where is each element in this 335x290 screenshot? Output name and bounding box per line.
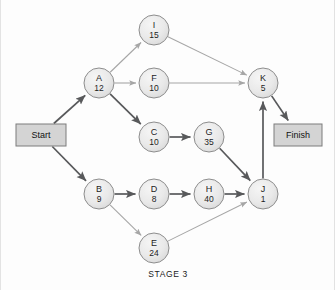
edge-K-to-finish	[272, 96, 289, 121]
edge-start-to-A	[54, 95, 85, 123]
edge-start-to-B	[52, 147, 86, 181]
node-A: A12	[84, 68, 114, 98]
figure-caption: STAGE 3	[148, 269, 187, 279]
node-value-H: 40	[204, 194, 214, 204]
node-value-C: 10	[149, 137, 159, 147]
edge-G-to-J	[220, 148, 251, 180]
node-label-K: K	[260, 73, 266, 83]
network-diagram-figure: StartFinishI15A12F10K5C10G35B9D8H40J1E24…	[0, 0, 335, 290]
terminal-label-finish: Finish	[286, 130, 310, 140]
node-label-E: E	[151, 238, 157, 248]
node-G: G35	[194, 122, 224, 152]
terminal-label-start: Start	[31, 130, 51, 140]
node-value-E: 24	[149, 248, 159, 258]
node-value-I: 15	[149, 30, 159, 40]
node-value-D: 8	[152, 194, 157, 204]
node-label-D: D	[151, 184, 158, 194]
node-value-J: 1	[261, 194, 266, 204]
node-label-B: B	[96, 184, 102, 194]
node-label-C: C	[151, 127, 158, 137]
node-B: B9	[84, 179, 114, 209]
node-I: I15	[139, 15, 169, 45]
project-network-graph: StartFinishI15A12F10K5C10G35B9D8H40J1E24…	[1, 0, 335, 290]
node-label-H: H	[206, 184, 213, 194]
node-label-A: A	[96, 73, 102, 83]
terminal-start: Start	[16, 124, 66, 146]
edge-A-to-C	[110, 94, 141, 124]
edges-layer	[52, 37, 288, 241]
node-E: E24	[139, 233, 169, 263]
node-label-I: I	[153, 20, 156, 30]
node-label-F: F	[151, 73, 157, 83]
nodes-layer: StartFinishI15A12F10K5C10G35B9D8H40J1E24	[16, 15, 322, 263]
node-value-B: 9	[97, 194, 102, 204]
edge-A-to-I	[110, 42, 141, 72]
node-K: K5	[248, 68, 278, 98]
node-value-K: 5	[261, 83, 266, 93]
node-label-J: J	[261, 184, 266, 194]
node-value-A: 12	[94, 83, 104, 93]
edge-I-to-K	[168, 37, 247, 75]
node-J: J1	[248, 179, 278, 209]
edge-B-to-E	[110, 205, 141, 236]
node-F: F10	[139, 68, 169, 98]
node-value-F: 10	[149, 83, 159, 93]
terminal-finish: Finish	[274, 124, 322, 146]
node-value-G: 35	[204, 137, 214, 147]
node-label-G: G	[205, 127, 212, 137]
node-H: H40	[194, 179, 224, 209]
node-D: D8	[139, 179, 169, 209]
node-C: C10	[139, 122, 169, 152]
